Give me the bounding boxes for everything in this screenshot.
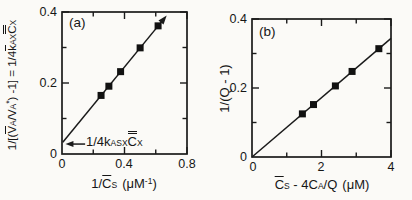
panel-b-data-point [375,45,382,52]
panel-a-data-point [117,68,124,75]
ylabel-a-vbar: V [5,126,19,134]
panel-a-annotation-arrowhead-icon [65,141,73,147]
panel-b-xtick-2: 2 [318,160,325,174]
xlabel-b-frag2: /Q [324,177,338,192]
panel-a-tag: (a) [69,15,86,30]
panel-a-y-axis-label: 1/[(VA/VA*) -1] = 1/4kAXCX [2,0,20,170]
panel-a-data-point [98,92,105,99]
panel-b-data-point [310,101,317,108]
panel-b-data-point [349,68,356,75]
xlabel-a-unit-exp: -1 [145,176,153,186]
xlabel-b-frag: - 4C [290,177,318,192]
panel-a-intercept-annotation: 1/4kASXCX [86,131,143,151]
panel-b-frame [252,19,391,157]
panel-b-x-axis-label: CS - 4CA/Q(μM) [275,176,370,194]
ylabel-a-kbar: k [5,45,19,51]
panel-b-data-point [299,110,306,117]
annotation-frag: 1/4k [86,134,111,149]
xlabel-b-cbar: C [275,176,284,191]
panel-a-xtick-0: 0 [59,157,66,171]
panel-b-xtick-0: 0 [250,160,257,174]
xlabel-a-unit: (μM [122,176,145,191]
panel-b-data-point [332,82,339,89]
ylabel-a-ksub: AX [8,34,18,45]
annotation-ksub: ASX [111,138,128,148]
ylabel-a-vsub: A [8,120,18,126]
panel-b-tag: (b) [259,24,276,39]
panel-b-ytick-04: 0.4 [213,12,247,26]
panel-a-xtick-08: 0.8 [178,157,195,171]
panel-a-ytick-02: 0.2 [23,76,57,90]
xlabel-a-unit-close: ) [152,176,156,191]
annotation-c-doublebar: C [128,131,137,148]
panel-b-ytick-0: 0 [213,150,247,164]
figure-canvas: (a) 1/[(VA/VA*) -1] = 1/4kAXCX 0.4 0.2 0… [0,0,412,200]
panel-a-ytick-0: 0 [23,147,57,161]
xlabel-a-cbar: C [102,175,111,190]
xlabel-a-csub: S [112,180,118,190]
annotation-csub: X [137,138,143,148]
ylabel-a-v2: V [6,109,18,117]
panel-a-x-axis-label: 1/CS(μM-1) [91,174,156,193]
ylabel-a-csub: X [8,20,18,26]
ylabel-a-frag: ) -1] = 1/4 [6,51,18,101]
xlabel-b-unit: (μM) [342,177,369,192]
ylabel-a-v2sub: A [8,104,18,110]
ylabel-a-v2sup: * [4,100,14,103]
panel-b-xtick-4: 4 [388,160,395,174]
panel-b-fit-line [252,38,391,157]
panel-a-fit-line [63,19,164,143]
panel-a-xtick-04: 0.4 [115,157,132,171]
panel-a-data-point [105,83,112,90]
panel-a-data-point [137,44,144,51]
panel-b-ytick-02: 0.2 [213,81,247,95]
ylabel-a-frag: 1/[( [6,134,18,151]
ylabel-a-frag: / [6,117,18,120]
ylabel-a-c-doublebar: C [3,25,19,33]
panel-a-data-point [155,22,162,29]
panel-a-ytick-04: 0.4 [23,5,57,19]
xlabel-a-frag: 1/ [91,176,102,191]
